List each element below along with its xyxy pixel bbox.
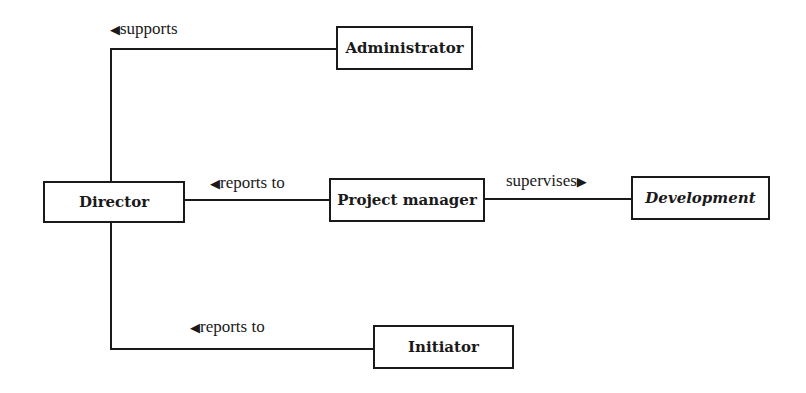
edge-label-text: supervises — [506, 172, 577, 190]
node-label: Initiator — [408, 338, 479, 356]
left-triangle-icon: ◀ — [110, 23, 120, 36]
connector-director-administrator — [110, 48, 337, 50]
edge-label-text: reports to — [220, 174, 285, 192]
left-triangle-icon: ◀ — [190, 321, 200, 334]
edge-label-reports-to-pm: ◀ reports to — [210, 174, 285, 192]
node-label: Development — [645, 189, 755, 207]
node-label: Administrator — [345, 39, 463, 57]
node-administrator: Administrator — [336, 26, 473, 70]
node-initiator: Initiator — [373, 325, 514, 369]
node-label: Project manager — [337, 191, 477, 209]
connector-director-initiator — [110, 348, 374, 350]
node-project-manager: Project manager — [329, 178, 485, 222]
connector-project-manager-development — [485, 198, 632, 200]
edge-label-text: reports to — [200, 318, 265, 336]
edge-label-supervises: supervises ▶ — [506, 172, 587, 190]
node-director: Director — [43, 181, 185, 223]
edge-label-supports: ◀ supports — [110, 20, 178, 38]
node-development: Development — [631, 176, 770, 220]
left-triangle-icon: ◀ — [210, 177, 220, 190]
edge-label-reports-to-initiator: ◀ reports to — [190, 318, 265, 336]
edge-label-text: supports — [120, 20, 178, 38]
right-triangle-icon: ▶ — [577, 175, 587, 188]
node-label: Director — [79, 193, 149, 211]
connector-director-project-manager — [185, 199, 330, 201]
